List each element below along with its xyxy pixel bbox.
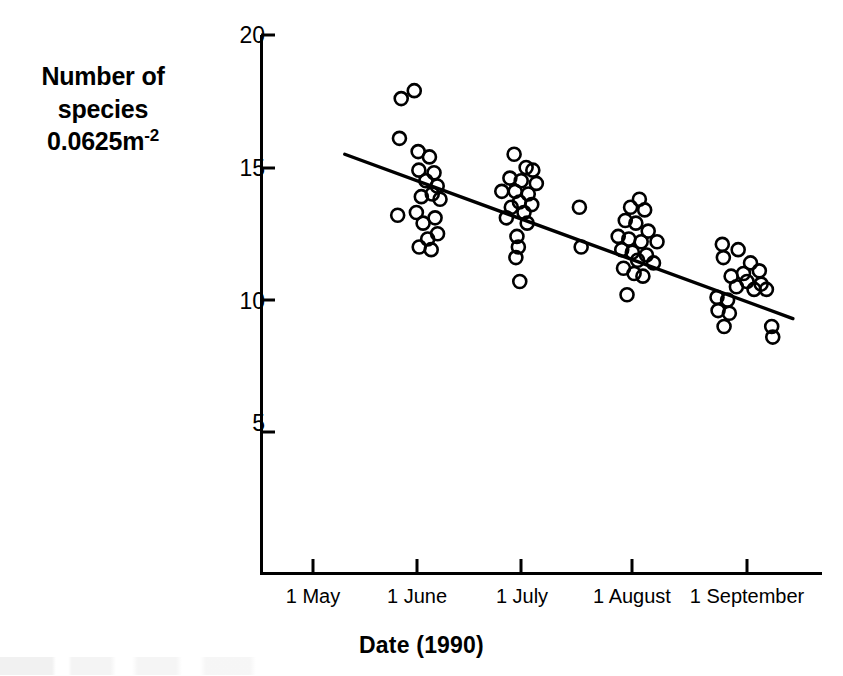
axis-lines bbox=[260, 35, 822, 574]
data-point bbox=[718, 320, 731, 333]
data-point bbox=[391, 209, 404, 222]
trend-line-layer bbox=[345, 154, 793, 318]
data-point bbox=[717, 251, 730, 264]
data-points-layer bbox=[391, 84, 779, 343]
data-point bbox=[732, 243, 745, 256]
data-point bbox=[636, 270, 649, 283]
data-point bbox=[417, 217, 430, 230]
data-point bbox=[393, 132, 406, 145]
data-point bbox=[408, 84, 421, 97]
data-point bbox=[737, 267, 750, 280]
figure-container: Number of species 0.0625m-2 Date (1990) … bbox=[0, 0, 843, 676]
regression-line bbox=[345, 154, 793, 318]
data-point bbox=[423, 150, 436, 163]
y-axis-ticks bbox=[261, 35, 275, 432]
data-point bbox=[621, 288, 634, 301]
data-point bbox=[395, 92, 408, 105]
data-point bbox=[753, 264, 766, 277]
data-point bbox=[624, 201, 637, 214]
x-axis-ticks bbox=[313, 559, 747, 573]
data-point bbox=[638, 203, 651, 216]
data-point bbox=[651, 235, 664, 248]
data-point bbox=[730, 280, 743, 293]
data-point bbox=[573, 201, 586, 214]
scan-artifact-bottom-edge bbox=[0, 657, 330, 675]
data-point bbox=[428, 166, 441, 179]
data-point bbox=[495, 185, 508, 198]
data-point bbox=[508, 148, 521, 161]
data-point bbox=[513, 275, 526, 288]
plot-area bbox=[0, 0, 843, 676]
data-point bbox=[628, 267, 641, 280]
data-point bbox=[716, 238, 729, 251]
